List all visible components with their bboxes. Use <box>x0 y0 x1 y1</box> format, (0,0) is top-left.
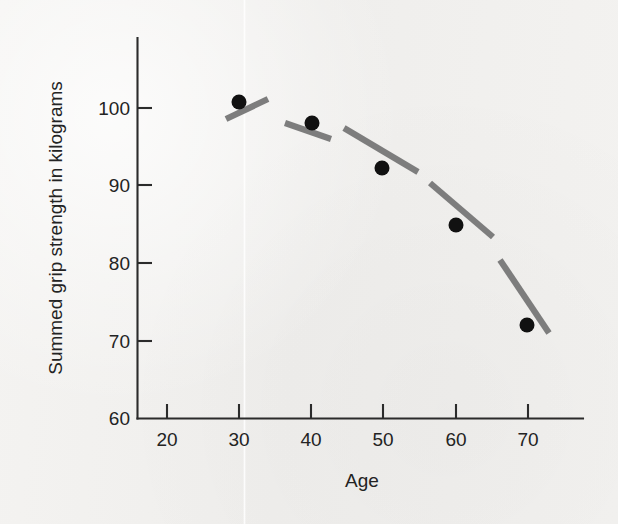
y-tick-label-60: 60 <box>109 408 130 429</box>
x-tick-label-20: 20 <box>156 429 177 450</box>
x-axis-tick-labels: 20 30 40 50 60 70 <box>156 429 538 450</box>
data-points <box>232 95 535 333</box>
x-axis-title: Age <box>345 470 379 491</box>
data-point-age-50 <box>375 161 390 176</box>
x-tick-label-70: 70 <box>517 429 538 450</box>
y-tick-label-90: 90 <box>109 175 130 196</box>
data-point-age-30 <box>232 95 247 110</box>
x-tick-label-30: 30 <box>228 429 249 450</box>
data-point-age-60 <box>449 218 464 233</box>
scatter-plot: 100 90 80 70 60 20 30 40 50 60 70 <box>0 0 618 524</box>
y-axis-ticks <box>138 108 153 341</box>
data-point-age-70 <box>520 318 535 333</box>
y-tick-label-80: 80 <box>109 253 130 274</box>
x-axis-ticks <box>167 404 528 419</box>
y-tick-label-100: 100 <box>98 98 130 119</box>
trend-line-segments <box>226 99 549 333</box>
x-tick-label-60: 60 <box>445 429 466 450</box>
y-axis-title: Summed grip strength in kilograms <box>45 81 66 375</box>
y-axis-tick-labels: 100 90 80 70 60 <box>98 98 130 429</box>
axes <box>138 38 584 419</box>
data-point-age-40 <box>305 116 320 131</box>
x-tick-label-40: 40 <box>300 429 321 450</box>
x-tick-label-50: 50 <box>372 429 393 450</box>
y-tick-label-70: 70 <box>109 331 130 352</box>
chart-figure: 100 90 80 70 60 20 30 40 50 60 70 <box>0 0 618 524</box>
